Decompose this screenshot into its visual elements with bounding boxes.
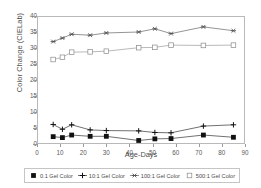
data-point [51,134,56,139]
data-point [201,25,206,29]
legend-label: 0.1 Gel Color [40,173,73,179]
legend-label: 500:1 Gel Color [196,173,235,179]
x-tick-mark [153,144,154,147]
data-point [136,128,141,133]
data-point [69,122,74,127]
series-layer [37,16,245,144]
series-line [53,124,233,132]
data-point [187,173,192,178]
data-point [104,49,109,54]
x-tick-mark [199,144,200,147]
x-tick-mark [222,144,223,147]
x-tick-mark [129,144,130,147]
series-line [53,135,233,140]
data-point [88,33,93,37]
legend-label: 10:1 Gel Color [89,173,125,179]
data-point [69,133,74,138]
legend-item[interactable]: 10:1 Gel Color [78,171,125,180]
data-point [88,50,93,55]
data-point [231,29,236,33]
data-point [152,130,157,135]
data-point [104,31,109,35]
data-point [152,27,157,31]
chart-legend: 0.1 Gel Color10:1 Gel Color100:1 Gel Col… [24,168,240,183]
data-point [51,57,56,62]
data-point [132,174,137,178]
data-point [136,45,141,50]
x-tick-mark [176,144,177,147]
chart-figure: Color Change (CIELab) 0510152025303540 0… [0,0,261,188]
x-tick-mark [37,144,38,147]
legend-marker-plus-icon [78,171,87,180]
x-axis-title: Age-Days [37,150,245,159]
data-point [201,43,206,48]
plot-wrapper: Color Change (CIELab) 0510152025303540 0… [0,0,261,160]
data-point [69,32,74,36]
x-tick-mark [60,144,61,147]
data-point [88,134,93,139]
series-line [53,27,233,42]
data-point [80,173,85,178]
series-line [53,45,233,59]
legend-marker-filled-square-icon [29,171,38,180]
data-point [60,135,65,140]
legend-label: 100:1 Gel Color [141,173,180,179]
data-point [50,122,55,127]
legend-marker-open-square-icon [185,171,194,180]
legend-marker-asterisk-icon [130,171,139,180]
data-point [152,136,157,141]
data-point [104,128,109,133]
data-point [169,136,174,141]
data-point [168,130,173,135]
data-point [87,127,92,132]
data-point [201,133,206,138]
data-point [51,40,56,44]
data-point [104,134,109,139]
data-point [31,173,36,178]
data-point [60,127,65,132]
data-point [136,138,141,143]
data-point [168,32,173,36]
data-point [69,50,74,55]
data-point [153,45,158,50]
x-tick-mark [83,144,84,147]
legend-item[interactable]: 0.1 Gel Color [29,171,73,180]
x-tick-mark [106,144,107,147]
data-point [169,43,174,48]
legend-item[interactable]: 500:1 Gel Color [185,171,235,180]
data-point [201,123,206,128]
y-axis-ticks: 0510152025303540 [0,0,37,160]
x-tick-mark [245,144,246,147]
data-point [231,122,236,127]
data-point [60,36,65,40]
data-point [60,55,65,60]
legend-item[interactable]: 100:1 Gel Color [130,171,180,180]
data-point [231,135,236,140]
data-point [136,30,141,34]
data-point [231,43,236,48]
